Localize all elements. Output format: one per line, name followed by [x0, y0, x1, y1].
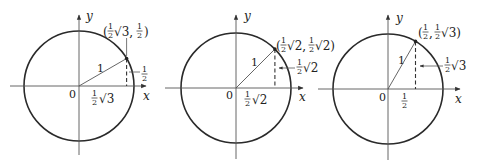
origin-label: 0 [69, 88, 76, 101]
svg-text:,: , [429, 26, 433, 40]
origin-label: 0 [226, 89, 233, 102]
y-axis-label: y [395, 11, 403, 25]
y-coordinate-label: 1 2 √3 [445, 56, 467, 74]
svg-text:1: 1 [423, 23, 428, 32]
point-marker [414, 40, 418, 44]
svg-text:√2: √2 [252, 93, 267, 107]
radius-label: 1 [97, 62, 104, 75]
point-label: ( 1 2 , 1 2 √3) [418, 23, 461, 41]
svg-text:√2: √2 [303, 61, 318, 75]
svg-text:(: ( [418, 26, 423, 40]
svg-text:2: 2 [142, 74, 147, 83]
y-axis-label: y [85, 9, 93, 23]
x-axis-label: x [143, 89, 150, 103]
panel-angle-45: y x 0 1 ( 1 2 √2, 1 2 √2) 1 2 √2 1 2 √2 [165, 9, 335, 159]
svg-text:(: ( [103, 25, 108, 39]
radius-label: 1 [251, 56, 258, 69]
svg-text:2: 2 [92, 98, 97, 107]
svg-text:√3): √3) [441, 26, 461, 40]
svg-text:1: 1 [142, 65, 147, 74]
svg-text:(: ( [276, 39, 281, 53]
svg-text:√3: √3 [99, 92, 114, 106]
svg-text:1: 1 [435, 23, 440, 32]
svg-text:1: 1 [297, 58, 302, 67]
svg-text:2: 2 [137, 31, 142, 40]
panel-angle-30: y x 0 1 ( 1 2 √3, 1 2 ) 1 2 1 2 √3 [10, 9, 150, 155]
svg-text:2: 2 [445, 65, 450, 74]
svg-text:1: 1 [445, 56, 450, 65]
origin-label: 0 [379, 91, 386, 104]
svg-text:2: 2 [297, 67, 302, 76]
svg-text:2: 2 [402, 101, 407, 110]
y-coordinate-label: 1 2 √2 [297, 58, 319, 76]
svg-text:1: 1 [281, 36, 286, 45]
point-label: ( 1 2 √2, 1 2 √2) [276, 36, 335, 54]
x-axis-label: x [299, 90, 306, 104]
svg-text:2: 2 [309, 45, 314, 54]
radius-label: 1 [398, 54, 405, 67]
svg-text:√2,: √2, [287, 39, 306, 53]
x-axis-label: x [455, 92, 462, 106]
svg-text:2: 2 [281, 45, 286, 54]
svg-text:2: 2 [423, 32, 428, 41]
svg-text:√2): √2) [315, 39, 335, 53]
x-coordinate-label: 1 2 [402, 92, 408, 110]
svg-text:2: 2 [435, 32, 440, 41]
point-label: ( 1 2 √3, 1 2 ) [103, 22, 149, 40]
point-marker [125, 57, 129, 61]
svg-text:√3: √3 [451, 59, 466, 73]
unit-circle-figure: y x 0 1 ( 1 2 √3, 1 2 ) 1 2 1 2 √3 [0, 0, 478, 168]
svg-text:): ) [144, 25, 149, 39]
svg-text:√3,: √3, [114, 25, 133, 39]
x-coordinate-label: 1 2 √3 [92, 89, 115, 107]
svg-text:1: 1 [92, 89, 97, 98]
svg-text:1: 1 [108, 22, 113, 31]
y-coordinate-label: 1 2 [142, 65, 148, 83]
svg-text:1: 1 [137, 22, 142, 31]
svg-text:2: 2 [108, 31, 113, 40]
svg-text:1: 1 [402, 92, 407, 101]
svg-text:1: 1 [245, 90, 250, 99]
y-axis-label: y [243, 9, 251, 23]
panel-angle-60: y x 0 1 ( 1 2 , 1 2 √3) 1 2 √3 1 2 [318, 11, 466, 160]
x-coordinate-label: 1 2 √2 [245, 90, 268, 108]
svg-text:2: 2 [245, 99, 250, 108]
svg-text:1: 1 [309, 36, 314, 45]
